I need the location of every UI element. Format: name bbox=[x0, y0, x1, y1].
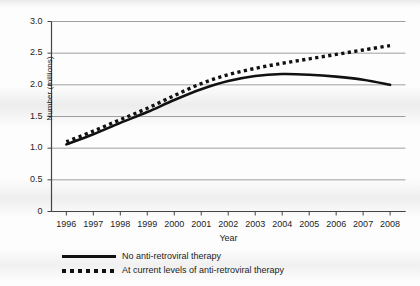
series-line-current-therapy bbox=[66, 46, 390, 142]
y-axis-tick-label: 2.5 bbox=[15, 48, 43, 57]
y-axis-tick-label: 2.0 bbox=[15, 80, 43, 89]
y-axis-tick-label: 0 bbox=[15, 207, 43, 216]
chart-legend: No anti-retroviral therapy At current le… bbox=[60, 249, 284, 277]
y-axis-tick-label: 0.5 bbox=[15, 175, 43, 184]
x-axis-tick-label: 2008 bbox=[373, 220, 407, 229]
y-axis-tick-label: 1.5 bbox=[15, 112, 43, 121]
x-axis-title: Year bbox=[199, 233, 259, 243]
legend-swatch-solid-line bbox=[60, 251, 118, 261]
legend-item-current-therapy: At current levels of anti-retroviral the… bbox=[60, 263, 284, 277]
legend-label: No anti-retroviral therapy bbox=[118, 251, 221, 261]
y-axis-title: Number (millions) bbox=[45, 34, 54, 144]
y-axis-tick-label: 3.0 bbox=[15, 17, 43, 26]
legend-label: At current levels of anti-retroviral the… bbox=[118, 265, 284, 275]
plot-area bbox=[0, 0, 420, 286]
chart-canvas bbox=[0, 0, 420, 286]
legend-swatch-dotted-line bbox=[60, 265, 118, 275]
legend-item-no-therapy: No anti-retroviral therapy bbox=[60, 249, 284, 263]
chart-figure: Number (millions) 00.51.01.52.02.53.0 19… bbox=[0, 0, 420, 286]
y-axis-tick-label: 1.0 bbox=[15, 143, 43, 152]
